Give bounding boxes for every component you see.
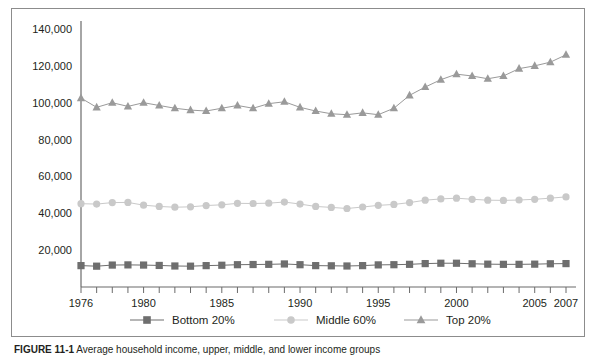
series-line — [81, 197, 566, 209]
data-point-marker — [390, 201, 397, 208]
data-point-marker — [417, 315, 426, 323]
data-point-marker — [515, 196, 522, 203]
data-point-marker — [312, 262, 319, 269]
y-axis-tick-label: 100,000 — [32, 97, 72, 109]
data-point-marker — [187, 263, 194, 270]
data-point-marker — [203, 202, 210, 209]
x-axis-tick-label: 1990 — [288, 297, 312, 309]
data-point-marker — [422, 197, 429, 204]
data-point-marker — [265, 261, 272, 268]
data-point-marker — [452, 70, 460, 78]
y-axis-tick-label: 40,000 — [38, 207, 72, 219]
data-point-marker — [547, 260, 554, 267]
data-point-marker — [187, 203, 194, 210]
legend-item-middle-60[interactable]: Middle 60% — [274, 314, 376, 326]
data-point-marker — [265, 200, 272, 207]
x-axis-tick-label: 2007 — [554, 297, 578, 309]
data-point-marker — [343, 205, 350, 212]
data-point-marker — [343, 262, 350, 269]
x-axis-tick-label: 1985 — [210, 297, 234, 309]
x-axis-tick-label: 1976 — [69, 297, 93, 309]
data-point-marker — [406, 261, 413, 268]
data-point-marker — [280, 97, 288, 105]
legend-label: Middle 60% — [316, 314, 376, 326]
legend-item-bottom-20[interactable]: Bottom 20% — [130, 314, 235, 326]
data-point-marker — [358, 108, 366, 116]
data-point-marker — [406, 199, 413, 206]
data-point-marker — [218, 201, 225, 208]
data-point-marker — [93, 200, 100, 207]
data-point-marker — [234, 261, 241, 268]
line-chart-plot: 20,00040,00060,00080,000100,000120,00014… — [12, 9, 584, 336]
data-point-marker — [281, 260, 288, 267]
series-bottom-20 — [77, 260, 569, 270]
data-point-marker — [469, 196, 476, 203]
data-point-marker — [328, 262, 335, 269]
data-point-marker — [562, 50, 570, 58]
data-point-marker — [405, 91, 413, 99]
data-point-marker — [233, 101, 241, 109]
data-point-marker — [109, 261, 116, 268]
data-point-marker — [140, 202, 147, 209]
data-point-marker — [500, 197, 507, 204]
y-axis-tick-label: 120,000 — [32, 60, 72, 72]
data-point-marker — [359, 203, 366, 210]
y-axis-tick-label: 60,000 — [38, 170, 72, 182]
data-point-marker — [375, 261, 382, 268]
data-point-marker — [249, 261, 256, 268]
x-axis-tick-label: 2005 — [522, 297, 546, 309]
data-point-marker — [108, 98, 116, 106]
data-point-marker — [77, 262, 84, 269]
data-point-marker — [140, 261, 147, 268]
data-point-marker — [171, 204, 178, 211]
series-middle-60 — [77, 193, 569, 212]
data-point-marker — [234, 200, 241, 207]
data-point-marker — [437, 195, 444, 202]
series-top-20 — [77, 50, 570, 117]
y-axis-tick-label: 20,000 — [38, 244, 72, 256]
data-point-marker — [484, 261, 491, 268]
data-point-marker — [296, 261, 303, 268]
x-axis-tick-label: 1980 — [131, 297, 155, 309]
data-point-marker — [546, 58, 554, 66]
data-point-marker — [453, 260, 460, 267]
series-line — [81, 263, 566, 266]
data-point-marker — [249, 200, 256, 207]
data-point-marker — [499, 71, 507, 79]
data-point-marker — [77, 200, 84, 207]
data-point-marker — [203, 262, 210, 269]
data-point-marker — [124, 199, 131, 206]
data-point-marker — [390, 261, 397, 268]
series-line — [81, 55, 566, 115]
legend-item-top-20[interactable]: Top 20% — [404, 314, 491, 326]
figure-container: 20,00040,00060,00080,000100,000120,00014… — [0, 0, 596, 358]
data-point-marker — [484, 197, 491, 204]
data-point-marker — [312, 203, 319, 210]
data-point-marker — [390, 104, 398, 112]
x-axis-tick-label: 2000 — [444, 297, 468, 309]
data-point-marker — [143, 316, 151, 324]
data-point-marker — [156, 262, 163, 269]
data-point-marker — [77, 94, 85, 102]
data-point-marker — [281, 198, 288, 205]
y-axis-tick-label: 140,000 — [32, 23, 72, 35]
data-point-marker — [296, 200, 303, 207]
y-axis-tick-label: 80,000 — [38, 134, 72, 146]
data-point-marker — [93, 263, 100, 270]
data-point-marker — [109, 199, 116, 206]
data-point-marker — [531, 196, 538, 203]
data-point-marker — [547, 195, 554, 202]
legend-label: Bottom 20% — [172, 314, 235, 326]
data-point-marker — [515, 261, 522, 268]
data-point-marker — [531, 261, 538, 268]
chart-frame: 20,00040,00060,00080,000100,000120,00014… — [11, 8, 585, 337]
data-point-marker — [156, 203, 163, 210]
data-point-marker — [124, 261, 131, 268]
data-point-marker — [562, 260, 569, 267]
figure-caption-label: FIGURE 11-1 — [14, 344, 74, 355]
data-point-marker — [422, 260, 429, 267]
data-point-marker — [359, 262, 366, 269]
data-point-marker — [287, 316, 295, 324]
data-point-marker — [421, 83, 429, 91]
legend-label: Top 20% — [446, 314, 491, 326]
